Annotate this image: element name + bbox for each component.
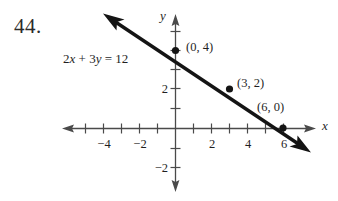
point-0-4 xyxy=(172,47,179,54)
graph-figure: 44. xyxy=(0,0,338,201)
plotted-line-series xyxy=(103,14,311,153)
equation-equals: = xyxy=(101,51,115,66)
x-tick-label--2: −2 xyxy=(130,137,150,152)
equation-label: 2x + 3y = 12 xyxy=(63,51,128,67)
x-tick-label-2: 2 xyxy=(204,137,220,152)
coordinate-plane-svg xyxy=(0,0,338,201)
equation-plus: + xyxy=(75,51,89,66)
y-tick-label-2: 2 xyxy=(152,82,168,97)
x-tick-label--4: −4 xyxy=(94,137,114,152)
line-arrow-end-icon xyxy=(290,136,312,153)
plotted-points xyxy=(172,47,287,132)
point-label-6-0: (6, 0) xyxy=(257,100,284,115)
y-axis xyxy=(172,14,180,192)
x-tick-label-4: 4 xyxy=(240,137,256,152)
y-tick-label--2: −2 xyxy=(144,161,168,176)
point-6-0 xyxy=(279,124,286,131)
x-tick-label-6: 6 xyxy=(276,137,292,152)
equation-constant: 12 xyxy=(115,51,128,66)
point-label-3-2: (3, 2) xyxy=(237,76,264,91)
point-3-2 xyxy=(226,85,233,92)
y-axis-label: y xyxy=(160,8,166,24)
line-arrow-start-icon xyxy=(103,14,125,31)
point-label-0-4: (0, 4) xyxy=(186,40,213,55)
x-axis-label: x xyxy=(322,118,328,134)
